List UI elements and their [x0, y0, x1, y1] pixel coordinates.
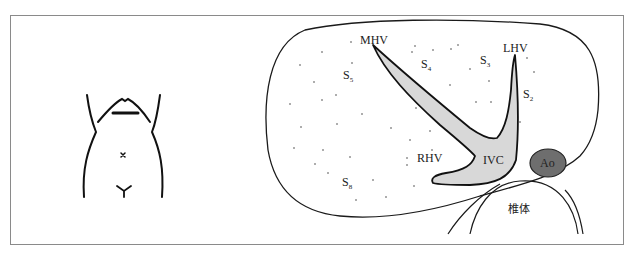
segment-s3: S3	[480, 53, 491, 69]
label-ivc: IVC	[483, 153, 504, 167]
liver-diagram: MHV LHV RHV IVC Ao 椎体 S5 S4 S3 S2 S8	[0, 0, 640, 258]
svg-text:S2: S2	[523, 87, 534, 103]
torso-icon	[84, 95, 163, 197]
label-vertebra: 椎体	[508, 202, 530, 216]
svg-text:S8: S8	[342, 175, 353, 191]
svg-text:S5: S5	[343, 68, 354, 84]
segment-s8: S8	[342, 175, 353, 191]
segment-s2: S2	[523, 87, 534, 103]
segment-s5: S5	[343, 68, 354, 84]
label-rhv: RHV	[417, 151, 443, 165]
svg-text:S4: S4	[421, 57, 432, 73]
label-lhv: LHV	[503, 41, 528, 55]
segment-s4: S4	[421, 57, 432, 73]
label-ao: Ao	[540, 156, 555, 170]
svg-text:S3: S3	[480, 53, 491, 69]
label-mhv: MHV	[360, 33, 388, 47]
